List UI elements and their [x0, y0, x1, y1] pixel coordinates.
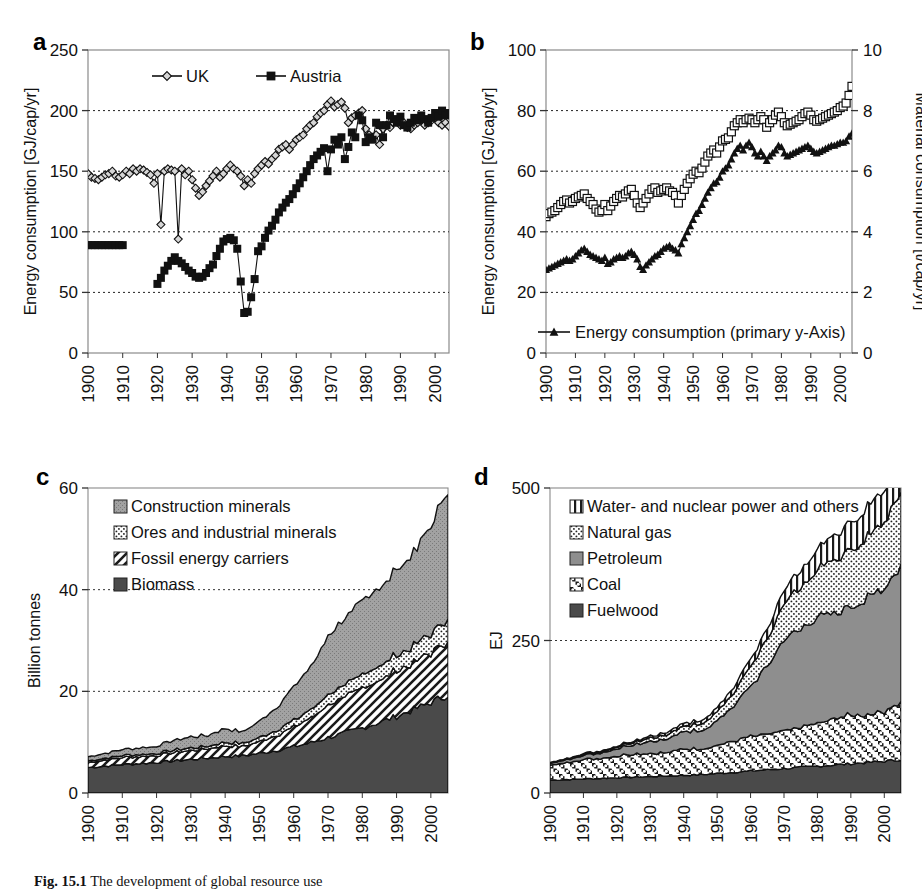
- svg-text:Petroleum: Petroleum: [587, 549, 662, 567]
- svg-text:40: 40: [59, 581, 78, 600]
- svg-text:1900: 1900: [537, 365, 556, 403]
- panel-d-chart: 0250500190019101920193019401950196019701…: [460, 455, 922, 875]
- panel-c-letter: c: [36, 463, 49, 491]
- svg-text:0: 0: [863, 344, 872, 363]
- svg-text:Energy consumption [GJ/cap/yr]: Energy consumption [GJ/cap/yr]: [480, 88, 497, 316]
- svg-text:1990: 1990: [391, 365, 410, 403]
- panel-a-letter: a: [33, 28, 46, 56]
- svg-text:1960: 1960: [287, 365, 306, 403]
- svg-text:1910: 1910: [113, 805, 132, 843]
- svg-text:1910: 1910: [566, 365, 585, 403]
- svg-text:4: 4: [863, 223, 872, 242]
- svg-text:80: 80: [517, 102, 536, 121]
- svg-text:1990: 1990: [388, 805, 407, 843]
- svg-text:1980: 1980: [808, 805, 827, 843]
- svg-text:1970: 1970: [319, 805, 338, 843]
- svg-text:Coal: Coal: [587, 575, 621, 593]
- svg-text:1960: 1960: [714, 365, 733, 403]
- svg-text:40: 40: [517, 223, 536, 242]
- svg-text:1970: 1970: [775, 805, 794, 843]
- svg-text:Fossil energy carriers: Fossil energy carriers: [131, 549, 289, 567]
- svg-text:1960: 1960: [742, 805, 761, 843]
- svg-text:1950: 1950: [684, 365, 703, 403]
- svg-text:1900: 1900: [79, 365, 98, 403]
- panel-d: d 02505001900191019201930194019501960197…: [460, 455, 922, 875]
- panel-d-letter: d: [474, 463, 489, 491]
- svg-text:1930: 1930: [625, 365, 644, 403]
- svg-text:1920: 1920: [148, 365, 167, 403]
- svg-text:500: 500: [512, 479, 540, 498]
- svg-text:250: 250: [512, 632, 540, 651]
- svg-text:Austria: Austria: [290, 67, 342, 85]
- svg-text:1920: 1920: [148, 805, 167, 843]
- figure-caption-text: The development of global resource use: [90, 873, 322, 889]
- svg-text:60: 60: [517, 162, 536, 181]
- svg-text:Fuelwood: Fuelwood: [587, 601, 659, 619]
- panel-b: b 0204060801000246810Material consumptio…: [460, 20, 922, 440]
- svg-text:100: 100: [50, 223, 78, 242]
- svg-text:6: 6: [863, 162, 872, 181]
- svg-text:Billion tonnes: Billion tonnes: [26, 593, 43, 688]
- svg-text:150: 150: [50, 162, 78, 181]
- panel-c: c 02040601900191019201930194019501960197…: [0, 455, 470, 875]
- svg-text:20: 20: [59, 682, 78, 701]
- svg-text:2000: 2000: [422, 805, 441, 843]
- svg-text:1970: 1970: [322, 365, 341, 403]
- svg-text:2000: 2000: [875, 805, 894, 843]
- svg-text:2000: 2000: [831, 365, 850, 403]
- svg-text:EJ: EJ: [488, 631, 505, 650]
- svg-text:1950: 1950: [708, 805, 727, 843]
- svg-text:8: 8: [863, 102, 872, 121]
- svg-text:1940: 1940: [655, 365, 674, 403]
- svg-text:Ores and industrial minerals: Ores and industrial minerals: [131, 523, 336, 541]
- svg-text:60: 60: [59, 479, 78, 498]
- svg-text:2000: 2000: [426, 365, 445, 403]
- svg-text:Construction minerals: Construction minerals: [131, 497, 291, 515]
- svg-text:1980: 1980: [772, 365, 791, 403]
- panel-a: a 05010015020025019001910192019301940195…: [0, 20, 470, 440]
- svg-text:1930: 1930: [182, 805, 201, 843]
- panel-b-chart: 0204060801000246810Material consumption …: [460, 20, 922, 440]
- svg-text:1920: 1920: [596, 365, 615, 403]
- svg-text:200: 200: [50, 102, 78, 121]
- figure-caption: Fig. 15.1 The development of global reso…: [34, 872, 674, 893]
- svg-text:1920: 1920: [608, 805, 627, 843]
- svg-text:1900: 1900: [79, 805, 98, 843]
- svg-text:10: 10: [863, 41, 882, 60]
- panel-a-chart: 0501001502002501900191019201930194019501…: [0, 20, 470, 440]
- svg-text:100: 100: [508, 41, 536, 60]
- figure-15-1: a 05010015020025019001910192019301940195…: [0, 0, 922, 893]
- svg-text:1950: 1950: [250, 805, 269, 843]
- panel-b-letter: b: [470, 28, 485, 56]
- svg-text:1910: 1910: [114, 365, 133, 403]
- svg-text:0: 0: [69, 344, 78, 363]
- svg-text:1940: 1940: [675, 805, 694, 843]
- svg-text:1970: 1970: [743, 365, 762, 403]
- svg-text:0: 0: [527, 344, 536, 363]
- svg-text:1980: 1980: [357, 365, 376, 403]
- svg-text:1940: 1940: [218, 365, 237, 403]
- svg-text:Natural gas: Natural gas: [587, 523, 671, 541]
- svg-text:50: 50: [59, 283, 78, 302]
- svg-text:1950: 1950: [253, 365, 272, 403]
- panel-c-chart: 0204060190019101920193019401950196019701…: [0, 455, 470, 875]
- svg-text:20: 20: [517, 283, 536, 302]
- svg-text:1960: 1960: [285, 805, 304, 843]
- svg-text:1910: 1910: [574, 805, 593, 843]
- svg-text:1940: 1940: [216, 805, 235, 843]
- svg-text:1930: 1930: [183, 365, 202, 403]
- svg-text:1980: 1980: [353, 805, 372, 843]
- svg-text:2: 2: [863, 283, 872, 302]
- svg-text:1930: 1930: [641, 805, 660, 843]
- svg-text:Energy consumption [GJ/cap/yr]: Energy consumption [GJ/cap/yr]: [22, 88, 39, 316]
- svg-text:Material consumption [t/cap/yr: Material consumption [t/cap/yr]: [913, 93, 922, 311]
- svg-text:0: 0: [69, 784, 78, 803]
- svg-text:0: 0: [531, 784, 540, 803]
- svg-text:UK: UK: [186, 67, 209, 85]
- svg-text:1990: 1990: [802, 365, 821, 403]
- svg-text:250: 250: [50, 41, 78, 60]
- svg-text:Water- and nuclear power and o: Water- and nuclear power and others: [587, 497, 859, 515]
- svg-text:1990: 1990: [842, 805, 861, 843]
- svg-text:Biomass: Biomass: [131, 575, 194, 593]
- svg-text:1900: 1900: [541, 805, 560, 843]
